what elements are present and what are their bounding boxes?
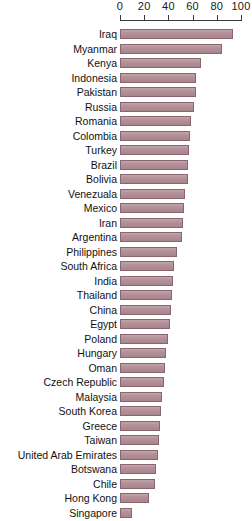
category-label: Romania (1, 115, 117, 128)
x-axis-tick-mark (241, 15, 242, 21)
bar-row: Mexico (0, 202, 252, 217)
bar-row: Iraq (0, 28, 252, 43)
bar-row: Oman (0, 362, 252, 377)
category-label: Mexico (1, 202, 117, 215)
bar (120, 508, 132, 518)
bar-fill (121, 422, 159, 430)
bar (120, 479, 155, 489)
bar (120, 406, 161, 416)
bar (120, 73, 196, 83)
bar (120, 131, 190, 141)
bar-fill (121, 88, 195, 96)
bar-rows: IraqMyanmarKenyaIndonesiaPakistanRussiaR… (0, 28, 252, 521)
bar (120, 363, 165, 373)
bar-fill (121, 509, 131, 517)
category-label: Singapore (1, 507, 117, 520)
bar (120, 290, 172, 300)
bar-row: Greece (0, 420, 252, 435)
category-label: Botswana (1, 463, 117, 476)
bar (120, 29, 233, 39)
category-label: Poland (1, 333, 117, 346)
bar-fill (121, 407, 160, 415)
bar (120, 348, 166, 358)
bar (120, 377, 164, 387)
category-label: China (1, 304, 117, 317)
category-label: Chile (1, 478, 117, 491)
category-label: Iran (1, 217, 117, 230)
bar-row: Malaysia (0, 391, 252, 406)
category-label: Hong Kong (1, 492, 117, 505)
bar (120, 450, 158, 460)
bar (120, 160, 188, 170)
bar-row: Colombia (0, 130, 252, 145)
bar-row: Venezuala (0, 188, 252, 203)
category-label: South Africa (1, 260, 117, 273)
bar-row: Indonesia (0, 72, 252, 87)
bar (120, 232, 182, 242)
bar (120, 145, 189, 155)
bar-fill (121, 277, 172, 285)
bar-row: Argentina (0, 231, 252, 246)
bar-fill (121, 204, 183, 212)
bar (120, 392, 162, 402)
category-label: Greece (1, 420, 117, 433)
bar-fill (121, 45, 221, 53)
bar (120, 87, 196, 97)
bar-row: Botswana (0, 463, 252, 478)
category-label: Venezuala (1, 188, 117, 201)
bar-fill (121, 146, 188, 154)
category-label: Bolivia (1, 173, 117, 186)
bar-fill (121, 291, 171, 299)
bar-fill (121, 190, 184, 198)
category-label: Colombia (1, 130, 117, 143)
bar-fill (121, 378, 163, 386)
bar (120, 116, 191, 126)
category-label: Czech Republic (1, 376, 117, 389)
bar-row: Myanmar (0, 43, 252, 58)
bar-fill (121, 494, 148, 502)
bar-fill (121, 161, 187, 169)
category-label: Thailand (1, 289, 117, 302)
bar-row: Kenya (0, 57, 252, 72)
x-axis-tick-mark (193, 15, 194, 21)
x-axis-tick-label: 100 (232, 0, 251, 13)
x-axis-line (120, 20, 241, 21)
x-axis-tick-label: 80 (210, 0, 223, 13)
bar-fill (121, 132, 189, 140)
x-axis-tick-mark (144, 15, 145, 21)
bar-fill (121, 117, 190, 125)
bar-row: South Korea (0, 405, 252, 420)
bar-fill (121, 436, 158, 444)
bar-row: Russia (0, 101, 252, 116)
bar-fill (121, 74, 195, 82)
bar (120, 319, 170, 329)
category-label: Hungary (1, 347, 117, 360)
x-axis-tick-mark (168, 15, 169, 21)
bar (120, 493, 149, 503)
bar-fill (121, 30, 232, 38)
bar-row: Poland (0, 333, 252, 348)
bar (120, 189, 185, 199)
bar-fill (121, 480, 154, 488)
bar (120, 174, 188, 184)
bar-fill (121, 364, 164, 372)
bar-fill (121, 335, 167, 343)
bar (120, 276, 173, 286)
bar-row: Czech Republic (0, 376, 252, 391)
bar (120, 334, 168, 344)
bar-row: South Africa (0, 260, 252, 275)
category-label: India (1, 275, 117, 288)
category-label: Egypt (1, 318, 117, 331)
bar (120, 305, 171, 315)
category-label: Russia (1, 101, 117, 114)
bar (120, 102, 194, 112)
bar-fill (121, 451, 157, 459)
bar-fill (121, 175, 187, 183)
x-axis-tick-mark (217, 15, 218, 21)
bar (120, 58, 201, 68)
category-label: Iraq (1, 28, 117, 41)
bar-row: Hong Kong (0, 492, 252, 507)
bar-row: Taiwan (0, 434, 252, 449)
bar-fill (121, 59, 200, 67)
bar-row: Thailand (0, 289, 252, 304)
